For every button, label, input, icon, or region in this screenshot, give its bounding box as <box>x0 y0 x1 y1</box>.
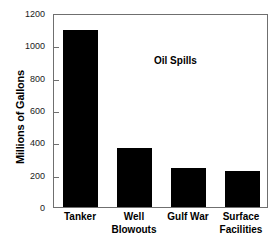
x-axis-tick-labels: TankerWellBlowoutsGulf WarSurfaceFacilit… <box>53 211 268 249</box>
y-axis-tick-label: 600 <box>1 106 45 116</box>
y-axis-tick-label: 800 <box>1 74 45 84</box>
y-axis-tick-mark <box>54 47 59 48</box>
y-axis-tick-mark <box>54 80 59 81</box>
bar-gulf-war <box>171 168 206 207</box>
y-axis-tick-mark <box>54 112 59 113</box>
y-axis-tick-label: 0 <box>1 203 45 213</box>
chart-annotation-oil-spills: Oil Spills <box>154 55 197 66</box>
y-axis-tick-label: 400 <box>1 138 45 148</box>
bar-well-blowouts <box>117 148 152 207</box>
bar-tanker <box>63 30 98 207</box>
y-axis-tick-mark <box>54 177 59 178</box>
y-axis-tick-label: 1000 <box>1 41 45 51</box>
y-axis-tick-mark <box>54 144 59 145</box>
y-axis-tick-labels: 020040060080010001200 <box>0 0 48 249</box>
x-axis-tick-label: SurfaceFacilities <box>208 211 274 236</box>
x-axis-tick-label-line: Surface <box>208 211 274 224</box>
bar-surface-facilities <box>225 171 260 207</box>
bar-chart-figure: Millions of Gallons 02004006008001000120… <box>0 0 279 249</box>
y-axis-tick-label: 200 <box>1 171 45 181</box>
x-axis-tick-label-line: Facilities <box>208 224 274 237</box>
y-axis-tick-label: 1200 <box>1 9 45 19</box>
plot-area: Oil Spills <box>53 14 268 208</box>
x-axis-tick-label-line: Blowouts <box>101 224 167 237</box>
